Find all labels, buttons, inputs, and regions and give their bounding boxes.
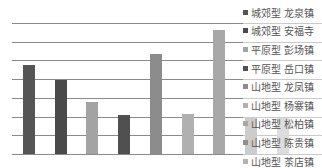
- legend-label: 山地型 杨寨镇: [251, 98, 314, 113]
- legend-item: 山地型 松柏镇: [243, 115, 322, 134]
- legend-swatch-icon: [243, 47, 248, 52]
- bar: [86, 102, 98, 154]
- legend-swatch-icon: [243, 84, 248, 89]
- legend-item: 山地型 龙凤镇: [243, 77, 322, 96]
- legend-label: 山地型 茶店镇: [251, 154, 314, 168]
- legend-label: 山地型 松柏镇: [251, 116, 314, 131]
- legend-swatch-icon: [243, 121, 248, 126]
- bar: [213, 30, 225, 154]
- legend-label: 山地型 陈贵镇: [251, 135, 314, 150]
- legend-label: 平原型 彭场镇: [251, 42, 314, 57]
- bar: [55, 80, 67, 154]
- legend-label: 城郊型 安福寺: [251, 23, 314, 38]
- bar: [23, 65, 35, 154]
- legend-swatch-icon: [243, 10, 248, 15]
- legend: 城郊型 龙泉镇城郊型 安福寺平原型 彭场镇平原型 岳口镇山地型 龙凤镇山地型 杨…: [243, 3, 322, 168]
- bar: [118, 115, 130, 154]
- bar-chart: 城郊型 龙泉镇城郊型 安福寺平原型 彭场镇平原型 岳口镇山地型 龙凤镇山地型 杨…: [0, 0, 322, 168]
- bar: [182, 114, 194, 154]
- legend-swatch-icon: [243, 140, 248, 145]
- legend-swatch-icon: [243, 28, 248, 33]
- legend-swatch-icon: [243, 66, 248, 71]
- legend-label: 城郊型 龙泉镇: [251, 5, 314, 20]
- legend-item: 平原型 彭场镇: [243, 40, 322, 59]
- legend-item: 平原型 岳口镇: [243, 59, 322, 78]
- bar: [150, 54, 162, 154]
- legend-item: 城郊型 龙泉镇: [243, 3, 322, 22]
- legend-item: 城郊型 安福寺: [243, 22, 322, 41]
- legend-swatch-icon: [243, 159, 248, 164]
- legend-label: 山地型 龙凤镇: [251, 79, 314, 94]
- legend-item: 山地型 杨寨镇: [243, 96, 322, 115]
- legend-item: 山地型 陈贵镇: [243, 133, 322, 152]
- legend-item: 山地型 茶店镇: [243, 152, 322, 168]
- legend-swatch-icon: [243, 103, 248, 108]
- legend-label: 平原型 岳口镇: [251, 61, 314, 76]
